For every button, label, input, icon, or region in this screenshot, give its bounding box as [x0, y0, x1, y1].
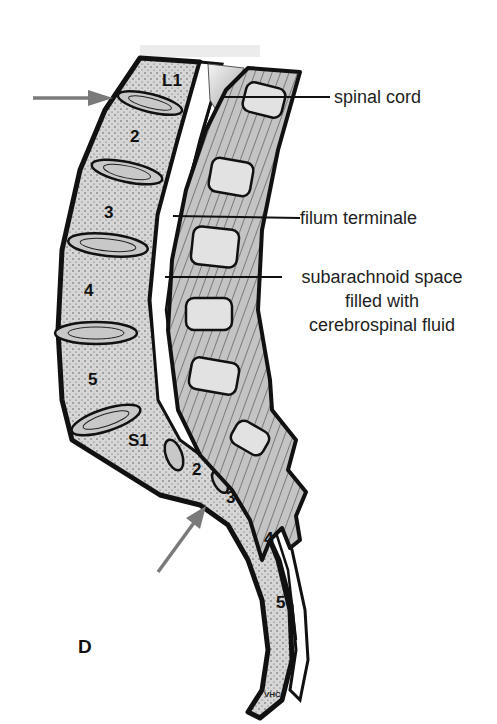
upper-arrow-icon: [33, 90, 113, 106]
spine-illustration: L1 2 3 4 5 S1 2 3 4 5: [0, 0, 497, 724]
vertebra-label-S5: 5: [276, 593, 285, 612]
panel-letter: D: [78, 636, 92, 658]
vertebra-label-S2: 2: [192, 460, 201, 479]
artist-signature: VHC: [264, 690, 281, 699]
spine-diagram: L1 2 3 4 5 S1 2 3 4 5 spinal cord filum …: [0, 0, 497, 724]
label-spinal-cord: spinal cord: [334, 86, 421, 108]
vertebra-label-L5: 5: [88, 370, 97, 389]
label-subarachnoid-line1: subarachnoid space: [284, 266, 480, 288]
label-subarachnoid-line2: filled with: [284, 290, 480, 312]
label-filum-terminale: filum terminale: [300, 207, 417, 229]
vertebra-label-L1: L1: [162, 71, 182, 90]
vertebra-label-L4: 4: [84, 281, 94, 300]
label-subarachnoid-line3: cerebrospinal fluid: [284, 314, 480, 336]
top-fade: [140, 45, 260, 57]
lower-arrow-icon: [158, 506, 206, 572]
vertebra-label-S1: S1: [128, 431, 149, 450]
vertebra-label-L3: 3: [104, 203, 113, 222]
vertebra-label-S4: 4: [264, 529, 274, 548]
vertebra-label-L2: 2: [130, 127, 139, 146]
vertebra-label-S3: 3: [226, 488, 235, 507]
